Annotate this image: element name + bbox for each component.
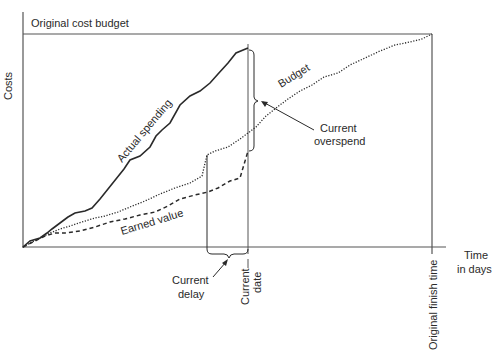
overspend-arrow (263, 102, 314, 130)
delay-brace (207, 155, 248, 258)
x-axis-label-line1: Time (464, 249, 488, 261)
original-finish-time-label: Original finish time (427, 260, 439, 350)
earned-value-label: Earned value (119, 206, 185, 236)
x-axis-label-line2: in days (457, 263, 492, 275)
budget-label: Budget (276, 61, 312, 90)
overspend-label-line2: overspend (314, 135, 365, 147)
overspend-brace (249, 50, 258, 151)
y-axis-label: Costs (2, 71, 14, 100)
earned-value-diagram: Costs Original cost budget Time in days … (0, 0, 496, 353)
current-date-label-line1: Current (239, 268, 251, 305)
actual-spending-label: Actual spending (114, 97, 174, 165)
budget-curve (23, 34, 432, 247)
delay-label-line2: delay (178, 288, 205, 300)
overspend-label-line1: Current (320, 122, 357, 134)
current-date-label-line2: date (251, 272, 263, 293)
original-cost-budget-label: Original cost budget (31, 17, 129, 29)
delay-label-line1: Current (172, 274, 209, 286)
